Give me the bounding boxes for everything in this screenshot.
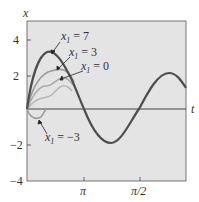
annotation-x1-0: x1 = 0	[80, 59, 109, 75]
chart: x t 4 2 −2 −4 π π/2 x1 = 7 x1 = 3 x1 = 0…	[0, 0, 199, 202]
x-axis-label: t	[191, 102, 195, 116]
ytick-minus4: −4	[10, 174, 23, 188]
annotation-x1-minus3: x1 = −3	[44, 130, 80, 146]
plot-area	[27, 21, 186, 181]
ytick-minus2: −2	[10, 138, 23, 152]
ytick-4: 4	[13, 33, 19, 47]
annotation-x1-7: x1 = 7	[60, 29, 89, 45]
ytick-2: 2	[13, 69, 19, 83]
xtick-pi: π	[80, 184, 87, 198]
y-axis-label: x	[22, 6, 29, 20]
xtick-pi-over-2: π/2	[131, 184, 146, 198]
